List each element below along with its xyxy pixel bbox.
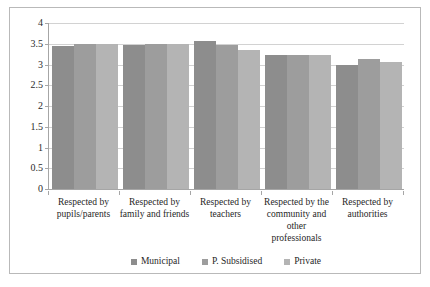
bar[interactable] <box>96 44 118 189</box>
bar[interactable] <box>287 55 309 189</box>
y-axis-label: 0 <box>38 184 43 194</box>
category-tick <box>190 191 191 195</box>
bars-layer <box>49 23 404 189</box>
y-axis-label: 3.5 <box>31 39 44 49</box>
legend-label: Private <box>294 257 321 267</box>
legend-swatch-icon <box>284 259 290 265</box>
bar[interactable] <box>216 45 238 189</box>
legend-swatch-icon <box>131 259 137 265</box>
y-axis-tick <box>45 189 49 190</box>
category-tick <box>332 191 333 195</box>
category-tick <box>261 191 262 195</box>
bar[interactable] <box>380 62 402 189</box>
category-label: Respected by teachers <box>190 196 261 220</box>
bar-group <box>262 23 333 189</box>
legend-swatch-icon <box>202 259 208 265</box>
legend-label: Municipal <box>141 257 180 267</box>
bar[interactable] <box>265 55 287 189</box>
bar-group <box>191 23 262 189</box>
y-axis-label: 1 <box>38 143 43 153</box>
y-axis-label: 4 <box>38 18 43 28</box>
legend-label: P. Subsidised <box>212 257 262 267</box>
y-axis-label: 3 <box>38 60 43 70</box>
category-tick <box>119 191 120 195</box>
bar[interactable] <box>74 44 96 189</box>
bar-group <box>333 23 404 189</box>
chart-figure: 00.511.522.533.54 Respected by pupils/pa… <box>0 0 430 287</box>
legend-item[interactable]: Private <box>284 257 321 267</box>
bar[interactable] <box>238 50 260 189</box>
bar[interactable] <box>123 45 145 189</box>
bar[interactable] <box>309 55 331 189</box>
bar[interactable] <box>194 41 216 189</box>
category-label: Respected by family and friends <box>119 196 190 220</box>
legend-item[interactable]: Municipal <box>131 257 180 267</box>
bar-group <box>49 23 120 189</box>
category-axis: Respected by pupils/parentsRespected by … <box>48 191 404 249</box>
y-axis-label: 0.5 <box>31 163 44 173</box>
y-axis-label: 1.5 <box>31 122 44 132</box>
chart-frame: 00.511.522.533.54 Respected by pupils/pa… <box>9 7 421 274</box>
bar[interactable] <box>336 65 358 189</box>
category-label: Respected by pupils/parents <box>48 196 119 220</box>
chart-legend: MunicipalP. SubsidisedPrivate <box>48 257 404 267</box>
category-tick <box>403 191 404 195</box>
bar[interactable] <box>167 44 189 189</box>
y-axis-label: 2 <box>38 101 43 111</box>
bar[interactable] <box>358 59 380 189</box>
bar[interactable] <box>145 44 167 189</box>
bar-group <box>120 23 191 189</box>
category-tick <box>48 191 49 195</box>
plot-area: 00.511.522.533.54 <box>48 23 404 190</box>
bar[interactable] <box>52 46 74 189</box>
category-label: Respected by the community and other pro… <box>261 196 332 244</box>
y-axis-label: 2.5 <box>31 80 44 90</box>
legend-item[interactable]: P. Subsidised <box>202 257 262 267</box>
category-label: Respected by authorities <box>332 196 403 220</box>
